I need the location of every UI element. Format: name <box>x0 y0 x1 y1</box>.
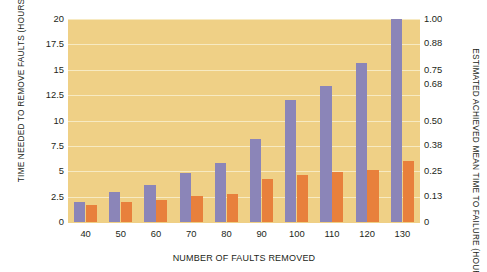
y-axis-right-tick-label: 0.13 <box>424 190 466 201</box>
y-axis-right-tick-label: 0.38 <box>424 139 466 150</box>
bar-group <box>209 19 244 222</box>
y-axis-right-tick-label: 1.00 <box>424 13 466 24</box>
bar-chart: TIME NEEDED TO REMOVE FAULTS (HOURS) 02.… <box>0 0 487 272</box>
y-axis-left-tick: 10 <box>22 115 64 127</box>
x-axis-tick-label: 120 <box>350 228 385 239</box>
y-axis-left-tick-label: 2.5 <box>22 191 64 202</box>
bar-groups <box>68 19 420 222</box>
bar-mean-time-to-failure <box>297 175 308 222</box>
y-axis-right-tick: 0 <box>424 216 466 228</box>
bar-mean-time-to-failure <box>403 161 414 222</box>
y-axis-right-title: ESTIMATED ACHIEVED MEAN TIME TO FAILURE … <box>471 48 482 198</box>
y-axis-left-tick: 12.5 <box>22 89 64 101</box>
y-axis-right-tick: 0.50 <box>424 115 466 127</box>
y-axis-left-tick: 7.5 <box>22 140 64 152</box>
bar-group <box>138 19 173 222</box>
y-axis-right-tick: 0.68 <box>424 78 466 90</box>
y-axis-right-tick-label: 0.88 <box>424 37 466 48</box>
y-axis-right-tick: 0.38 <box>424 139 466 151</box>
y-axis-right-tick-label: 0.75 <box>424 64 466 75</box>
bar-group <box>385 19 420 222</box>
bar-time-to-remove-faults <box>109 192 120 222</box>
y-axis-left-tick: 15 <box>22 64 64 76</box>
y-axis-right-tick: 0.88 <box>424 37 466 49</box>
bar-mean-time-to-failure <box>227 194 238 222</box>
y-axis-right-tick-label: 0.25 <box>424 165 466 176</box>
y-axis-left-tick-label: 15 <box>22 64 64 75</box>
y-axis-right-tick-label: 0 <box>424 216 466 227</box>
bar-group <box>103 19 138 222</box>
bar-group <box>350 19 385 222</box>
bar-time-to-remove-faults <box>250 139 261 222</box>
x-axis-tick-label: 70 <box>174 228 209 239</box>
bar-time-to-remove-faults <box>144 185 155 222</box>
y-axis-left-tick: 20 <box>22 13 64 25</box>
y-axis-left-tick: 0 <box>22 216 64 228</box>
y-axis-right-ticks: 00.130.250.380.500.680.750.881.00 <box>424 0 466 272</box>
bar-mean-time-to-failure <box>367 170 378 222</box>
bar-time-to-remove-faults <box>320 86 331 222</box>
y-axis-left-tick-label: 0 <box>22 216 64 227</box>
bar-mean-time-to-failure <box>262 179 273 222</box>
x-axis-tick-label: 90 <box>244 228 279 239</box>
bar-time-to-remove-faults <box>215 163 226 222</box>
y-axis-left-tick-label: 17.5 <box>22 38 64 49</box>
x-axis-tick-label: 60 <box>138 228 173 239</box>
y-axis-left-tick: 5 <box>22 165 64 177</box>
x-axis-tick-label: 80 <box>209 228 244 239</box>
y-axis-right-tick-label: 0.50 <box>424 115 466 126</box>
y-axis-right-tick: 0.13 <box>424 190 466 202</box>
bar-time-to-remove-faults <box>180 173 191 222</box>
x-axis-line <box>68 222 420 223</box>
x-axis-tick-label: 130 <box>385 228 420 239</box>
x-axis-tick-label: 110 <box>314 228 349 239</box>
y-axis-left-tick-label: 10 <box>22 115 64 126</box>
y-axis-left-tick: 17.5 <box>22 38 64 50</box>
y-axis-right-tick: 1.00 <box>424 13 466 25</box>
bar-group <box>244 19 279 222</box>
y-axis-left-ticks: 02.557.51012.51517.520 <box>22 0 64 272</box>
x-axis-tick-label: 100 <box>279 228 314 239</box>
x-axis-title: NUMBER OF FAULTS REMOVED <box>68 253 420 264</box>
plot-area <box>68 19 420 222</box>
bar-mean-time-to-failure <box>121 202 132 222</box>
y-axis-right-tick: 0.75 <box>424 64 466 76</box>
x-axis-tick-label: 50 <box>103 228 138 239</box>
bar-group <box>314 19 349 222</box>
y-axis-left-tick: 2.5 <box>22 191 64 203</box>
y-axis-left-tick-label: 7.5 <box>22 140 64 151</box>
bar-mean-time-to-failure <box>86 205 97 222</box>
y-axis-left-tick-label: 20 <box>22 13 64 24</box>
y-axis-right-tick-label: 0.68 <box>424 78 466 89</box>
y-axis-left-tick-label: 5 <box>22 165 64 176</box>
bar-time-to-remove-faults <box>285 100 296 222</box>
bar-mean-time-to-failure <box>156 200 167 222</box>
bar-mean-time-to-failure <box>191 196 202 222</box>
y-axis-right-tick: 0.25 <box>424 165 466 177</box>
bar-time-to-remove-faults <box>356 63 367 222</box>
x-axis-tick-label: 40 <box>68 228 103 239</box>
x-axis-ticks: 405060708090100110120130 <box>68 228 420 244</box>
bar-time-to-remove-faults <box>74 202 85 222</box>
y-axis-left-tick-label: 12.5 <box>22 89 64 100</box>
bar-group <box>68 19 103 222</box>
bar-mean-time-to-failure <box>332 172 343 222</box>
bar-group <box>279 19 314 222</box>
bar-group <box>174 19 209 222</box>
bar-time-to-remove-faults <box>391 19 402 222</box>
